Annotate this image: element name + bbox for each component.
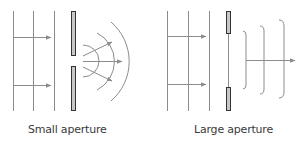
large-aperture-caption: Large aperture: [194, 123, 273, 136]
incident-wavefronts: [14, 11, 55, 111]
barrier-top: [72, 12, 76, 56]
small-aperture-panel: [13, 11, 129, 111]
large-aperture-panel: [167, 11, 295, 111]
barrier-top: [227, 12, 231, 34]
incident-arrows: [167, 37, 206, 85]
barrier: [227, 12, 231, 111]
barrier-bottom: [227, 88, 231, 111]
small-aperture-caption: Small aperture: [28, 123, 107, 136]
barrier-bottom: [72, 67, 76, 111]
diffraction-diagram: [0, 0, 307, 141]
incident-arrows: [13, 38, 51, 86]
diffracted-wavefronts: [243, 20, 284, 98]
barrier: [72, 12, 76, 111]
incident-wavefronts: [168, 11, 210, 111]
diffracted-arrows: [83, 42, 122, 81]
